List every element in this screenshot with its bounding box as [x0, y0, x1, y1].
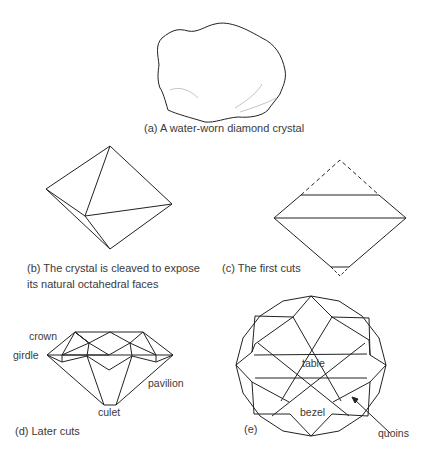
first-cuts-figure: [274, 160, 406, 276]
caption-c: (c) The first cuts: [222, 262, 301, 275]
caption-b-line1: (b) The crystal is cleaved to expose: [27, 262, 200, 275]
brilliant-side-view: [47, 332, 173, 405]
label-table: table: [302, 357, 325, 370]
label-bezel: bezel: [300, 406, 325, 419]
caption-a: (a) A water-worn diamond crystal: [144, 122, 304, 135]
label-culet: culet: [98, 406, 120, 419]
diamond-cutting-diagram: [0, 0, 422, 450]
caption-d: (d) Later cuts: [15, 425, 80, 438]
caption-b-line2: its natural octahedral faces: [27, 278, 158, 291]
label-pavilion: pavilion: [148, 377, 184, 390]
caption-e: (e): [244, 423, 257, 436]
octahedron-figure: [46, 146, 172, 249]
label-girdle: girdle: [13, 349, 39, 362]
label-quoins: quoins: [378, 427, 409, 440]
rough-diamond-crystal: [158, 23, 286, 122]
label-crown: crown: [29, 330, 57, 343]
